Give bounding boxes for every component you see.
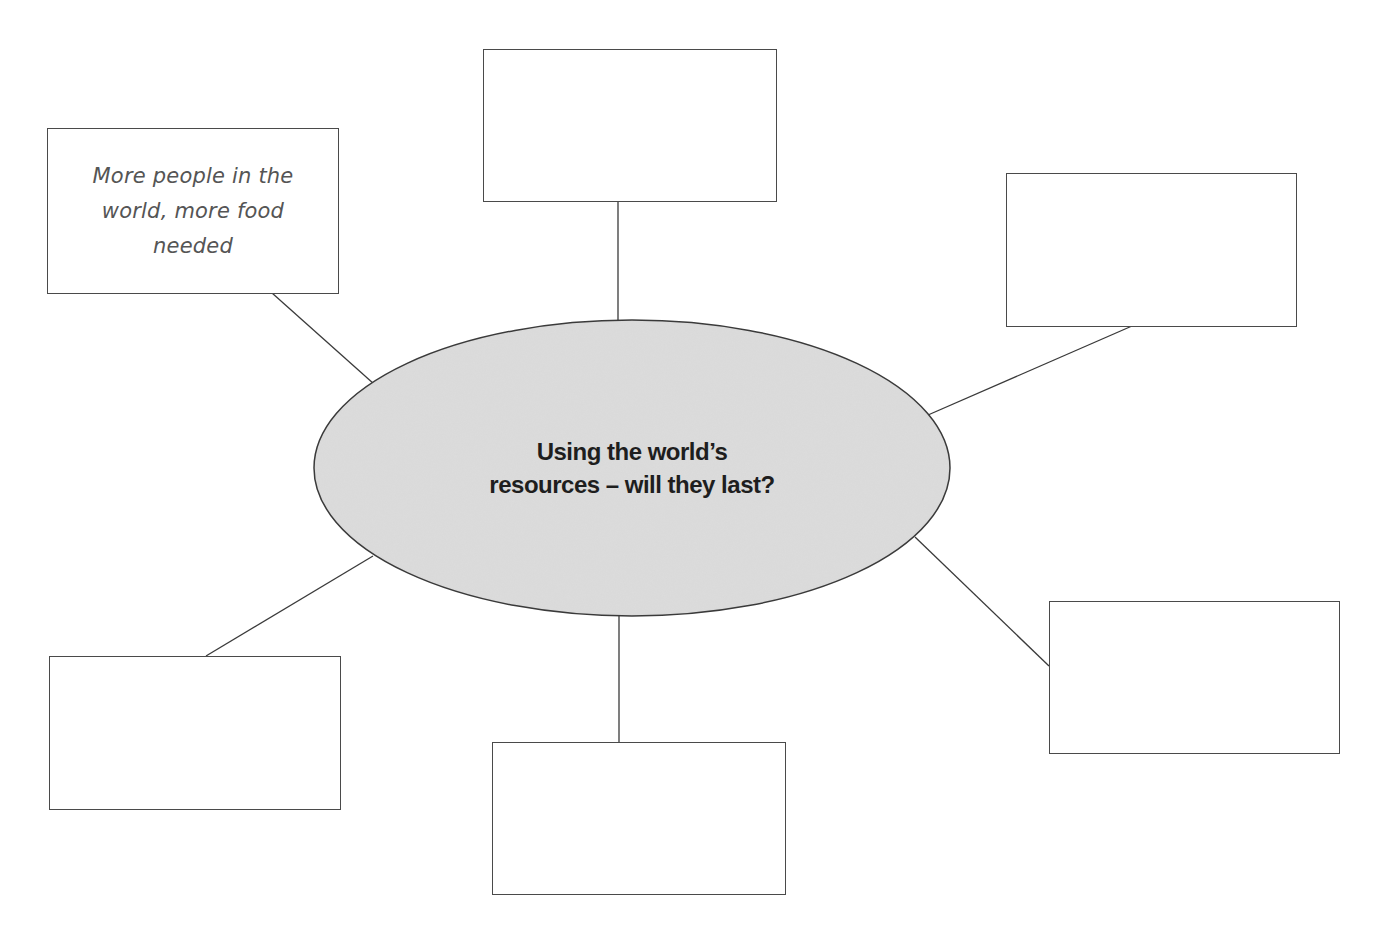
central-topic-line-2: resources – will they last? (489, 468, 774, 501)
idea-text-line-3: needed (93, 229, 294, 264)
idea-box-top-left[interactable]: More people in the world, more food need… (47, 128, 339, 294)
idea-box-bottom-right[interactable] (1049, 601, 1340, 754)
central-topic: Using the world’s resources – will they … (314, 320, 950, 616)
idea-box-top-right[interactable] (1006, 173, 1297, 327)
idea-text-line-1: More people in the (93, 159, 294, 194)
connector-top-right (928, 326, 1132, 415)
idea-box-bottom[interactable] (492, 742, 786, 895)
idea-box-bottom-left[interactable] (49, 656, 341, 810)
idea-text-line-2: world, more food (93, 194, 294, 229)
idea-box-text: More people in the world, more food need… (73, 159, 314, 264)
idea-box-top[interactable] (483, 49, 777, 202)
central-topic-line-1: Using the world’s (489, 435, 774, 468)
